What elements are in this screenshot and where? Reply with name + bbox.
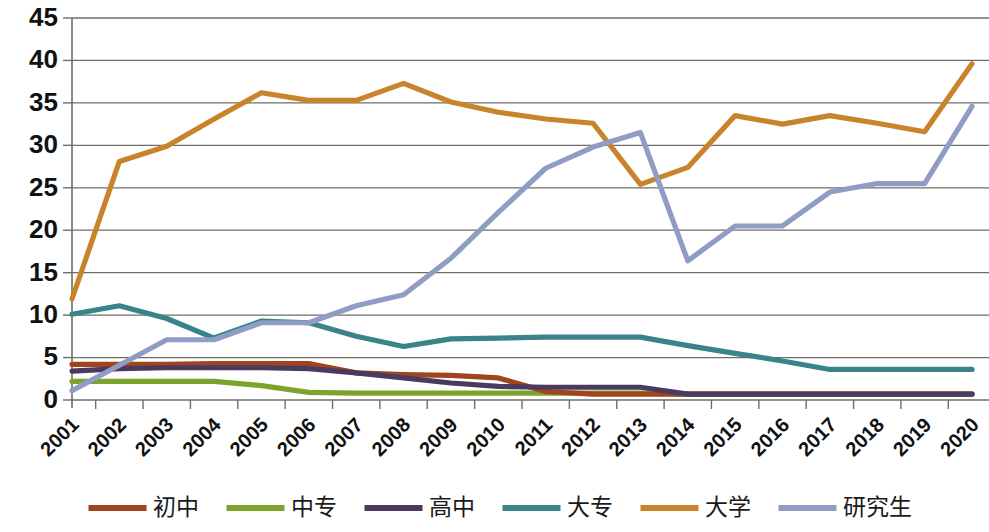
x-axis-tick-label: 2002 [83,413,130,460]
legend-label-大专: 大专 [567,494,613,520]
x-axis-tick-label: 2019 [888,413,935,460]
y-axis-tick-label: 25 [29,172,58,202]
chart-legend: 初中中专高中大专大学研究生 [89,494,912,520]
x-axis-tick-label: 2016 [746,413,793,460]
series-line-研究生 [72,106,972,390]
x-axis-tick-label: 2008 [367,413,414,460]
y-axis-tick-label: 5 [44,341,58,371]
x-axis-tick-label: 2006 [273,413,320,460]
x-axis-tick-label: 2005 [225,413,272,460]
legend-label-研究生: 研究生 [843,494,912,520]
legend-label-大学: 大学 [705,494,751,520]
x-axis-tick-label: 2004 [178,413,226,461]
x-axis-tick-label: 2012 [557,413,604,460]
y-axis-tick-label: 45 [29,2,58,32]
legend-label-中专: 中专 [291,494,337,520]
x-axis-tick-label: 2014 [652,413,700,461]
x-tickmarks-group [63,18,948,409]
x-axis-tick-label: 2007 [320,413,367,460]
series-line-大学 [72,64,972,299]
legend-label-初中: 初中 [153,494,199,520]
x-axis-tick-label: 2013 [604,413,651,460]
y-axis-labels-group: 454035302520151050 [29,2,58,414]
chart-canvas: 454035302520151050 200120022003200420052… [0,0,989,532]
x-axis-tick-label: 2009 [415,413,462,460]
x-axis-tick-label: 2010 [462,413,509,460]
x-axis-tick-label: 2018 [841,413,888,460]
x-axis-tick-label: 2003 [131,413,178,460]
y-axis-tick-label: 15 [29,257,58,287]
gridlines-group [72,18,989,400]
y-axis-tick-label: 10 [29,299,58,329]
y-axis-tick-label: 30 [29,129,58,159]
y-axis-tick-label: 35 [29,87,58,117]
x-axis-labels-group: 2001200220032004200520062007200820092010… [36,413,983,461]
x-axis-tick-label: 2001 [36,413,83,460]
y-axis-tick-label: 0 [44,384,58,414]
y-axis-tick-label: 20 [29,214,58,244]
y-axis-tick-label: 40 [29,44,58,74]
x-axis-tick-label: 2020 [936,413,983,460]
x-axis-tick-label: 2011 [510,413,556,459]
legend-label-高中: 高中 [429,494,475,520]
series-lines-group [72,64,972,394]
line-chart: 454035302520151050 200120022003200420052… [0,0,989,532]
x-axis-tick-label: 2017 [794,413,841,460]
x-axis-tick-label: 2015 [699,413,746,460]
